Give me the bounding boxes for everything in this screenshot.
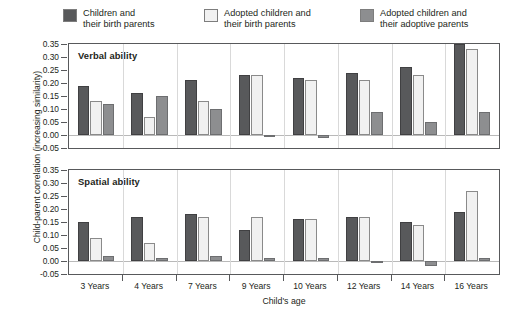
group-separator (123, 44, 124, 148)
group-separator (284, 170, 285, 274)
bar-verbal-ability-3-years-series2 (103, 104, 115, 135)
x-tick-label-9-years: 9 Years (229, 281, 283, 291)
x-tick-label-16-years: 16 Years (444, 281, 498, 291)
y-tick-label: -0.05 (0, 143, 68, 153)
group-separator (230, 170, 231, 274)
bar-spatial-ability-14-years-series1 (413, 225, 425, 261)
bar-spatial-ability-12-years-series1 (359, 217, 371, 261)
bar-spatial-ability-3-years-series2 (103, 256, 115, 261)
bar-spatial-ability-4-years-series1 (144, 243, 156, 261)
y-tick-label: 0.10 (0, 230, 68, 240)
legend-swatch-adopted-adoptive-parents (360, 9, 374, 22)
bar-spatial-ability-10-years-series1 (305, 219, 317, 261)
legend-label-line1: Adopted children and (224, 8, 311, 18)
y-tick-label: 0.10 (0, 104, 68, 114)
bar-spatial-ability-3-years-series0 (78, 222, 90, 261)
bar-verbal-ability-9-years-series1 (251, 75, 263, 135)
bar-spatial-ability-12-years-series0 (346, 217, 358, 261)
bar-verbal-ability-14-years-series2 (425, 122, 437, 135)
x-tick-label-12-years: 12 Years (337, 281, 391, 291)
bar-spatial-ability-12-years-series2 (371, 261, 383, 263)
bar-spatial-ability-3-years-series1 (90, 238, 102, 261)
bar-verbal-ability-14-years-series1 (413, 75, 425, 135)
x-tick-label-4-years: 4 Years (122, 281, 176, 291)
group-separator (177, 44, 178, 148)
bar-spatial-ability-4-years-series0 (131, 217, 143, 261)
chart-figure: Children and their birth parents Adopted… (0, 0, 507, 319)
y-tick-label: 0.30 (0, 52, 68, 62)
bar-verbal-ability-7-years-series2 (210, 109, 222, 135)
bar-spatial-ability-9-years-series1 (251, 217, 263, 261)
group-separator (392, 170, 393, 274)
legend-item-adopted-adoptive-parents: Adopted children and their adoptive pare… (360, 8, 468, 29)
bar-verbal-ability-4-years-series2 (156, 96, 168, 135)
plot-area-verbal (69, 44, 499, 148)
group-separator (392, 44, 393, 148)
y-tick-label: 0.15 (0, 217, 68, 227)
bar-spatial-ability-16-years-series0 (454, 212, 466, 261)
x-tick-label-7-years: 7 Years (176, 281, 230, 291)
bar-spatial-ability-14-years-series0 (400, 222, 412, 261)
group-separator (338, 44, 339, 148)
group-separator (284, 44, 285, 148)
bar-verbal-ability-12-years-series1 (359, 80, 371, 135)
bar-verbal-ability-16-years-series0 (454, 44, 466, 135)
bar-verbal-ability-16-years-series1 (466, 49, 478, 135)
plot-area-spatial (69, 170, 499, 274)
y-tick-label: 0.25 (0, 191, 68, 201)
group-separator (177, 170, 178, 274)
bar-verbal-ability-7-years-series1 (198, 101, 210, 135)
bar-verbal-ability-9-years-series2 (264, 135, 276, 137)
legend-label-children-birth-parents: Children and their birth parents (83, 8, 155, 29)
y-tick-label: 0.00 (0, 256, 68, 266)
bar-spatial-ability-10-years-series0 (293, 219, 305, 261)
bar-spatial-ability-16-years-series2 (479, 258, 491, 261)
bar-verbal-ability-4-years-series1 (144, 117, 156, 135)
bar-spatial-ability-7-years-series2 (210, 256, 222, 261)
bar-spatial-ability-9-years-series0 (239, 230, 251, 261)
legend-label-line2: their birth parents (83, 19, 155, 29)
legend-label-adopted-adoptive-parents: Adopted children and their adoptive pare… (380, 8, 468, 29)
y-tick-label: 0.05 (0, 243, 68, 253)
y-tick-label: 0.05 (0, 117, 68, 127)
legend-label-line2: their birth parents (224, 19, 296, 29)
y-tick-label: 0.00 (0, 130, 68, 140)
legend: Children and their birth parents Adopted… (0, 6, 507, 36)
group-separator (123, 170, 124, 274)
bar-verbal-ability-7-years-series0 (185, 80, 197, 135)
bar-verbal-ability-10-years-series1 (305, 80, 317, 135)
bar-verbal-ability-12-years-series2 (371, 112, 383, 135)
x-axis-title: Child's age (68, 296, 500, 306)
bar-spatial-ability-16-years-series1 (466, 191, 478, 261)
y-tick-label: 0.25 (0, 65, 68, 75)
x-tick-label-14-years: 14 Years (391, 281, 445, 291)
x-tick-label-3-years: 3 Years (68, 281, 122, 291)
bar-verbal-ability-16-years-series2 (479, 112, 491, 135)
legend-label-line1: Adopted children and (380, 8, 467, 18)
bar-verbal-ability-12-years-series0 (346, 73, 358, 135)
bar-spatial-ability-10-years-series2 (318, 258, 330, 261)
x-tick-label-10-years: 10 Years (283, 281, 337, 291)
bar-verbal-ability-10-years-series2 (318, 135, 330, 138)
legend-label-adopted-birth-parents: Adopted children and their birth parents (224, 8, 311, 29)
group-separator (230, 44, 231, 148)
y-tick-label: 0.30 (0, 178, 68, 188)
legend-item-adopted-birth-parents: Adopted children and their birth parents (204, 8, 311, 29)
bar-verbal-ability-14-years-series0 (400, 67, 412, 135)
plot-panel-verbal: Verbal ability (68, 43, 500, 149)
y-tick-label: 0.20 (0, 78, 68, 88)
legend-item-children-birth-parents: Children and their birth parents (63, 8, 155, 29)
group-separator (445, 44, 446, 148)
bar-verbal-ability-9-years-series0 (239, 75, 251, 135)
plot-panel-spatial: Spatial ability (68, 169, 500, 275)
legend-label-line1: Children and (83, 8, 135, 18)
y-tick-label: -0.05 (0, 269, 68, 279)
legend-label-line2: their adoptive parents (380, 19, 468, 29)
bar-spatial-ability-14-years-series2 (425, 261, 437, 266)
bar-verbal-ability-3-years-series1 (90, 101, 102, 135)
bar-spatial-ability-9-years-series2 (264, 258, 276, 261)
group-separator (445, 170, 446, 274)
y-tick-label: 0.15 (0, 91, 68, 101)
group-separator (338, 170, 339, 274)
bar-spatial-ability-7-years-series1 (198, 217, 210, 261)
